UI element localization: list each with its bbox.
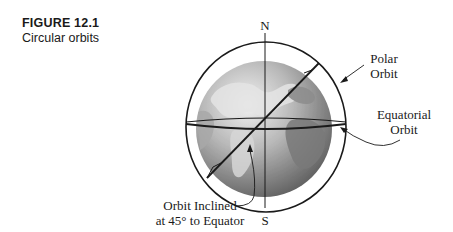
inclined-orbit-label-line2: at 45° to Equator [156, 213, 245, 228]
polar-orbit-arrow-icon [340, 65, 364, 83]
equatorial-orbit-label-line2: Orbit [390, 122, 418, 137]
polar-orbit-label-line2: Orbit [370, 66, 398, 81]
orbit-diagram: N S Polar Orbit Equatorial Orbit Orbit I… [0, 0, 453, 232]
polar-orbit-label-line1: Polar [370, 51, 398, 66]
south-pole-label: S [261, 213, 268, 228]
inclined-orbit-label-line1: Orbit Inclined [163, 198, 237, 213]
equatorial-orbit-label-line1: Equatorial [377, 107, 432, 122]
north-pole-label: N [260, 18, 270, 33]
